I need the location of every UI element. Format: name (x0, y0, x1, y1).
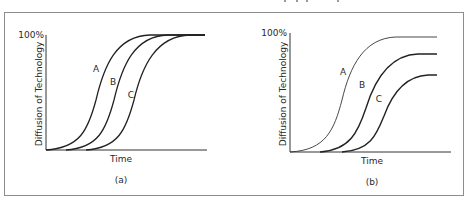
top-cutoff-text (284, 0, 339, 2)
y-tick-100: 100% (18, 30, 44, 40)
x-axis-label: Time (360, 156, 383, 166)
panel-a: 100% Diffusion of Technology A B C Time … (18, 30, 207, 185)
y-tick-100: 100% (261, 28, 287, 38)
curve-b-label: B (110, 77, 116, 87)
curve-a (46, 35, 205, 150)
diffusion-figure: 100% Diffusion of Technology A B C Time … (0, 0, 469, 201)
curve-b-label: B (359, 80, 365, 90)
x-axis-label: Time (109, 154, 132, 164)
panel-caption: (b) (366, 177, 379, 187)
curve-c (86, 35, 205, 150)
curve-c-label: C (376, 94, 382, 104)
panel-b: 100% Diffusion of Technology A B C Time … (261, 28, 451, 187)
curve-a-label: A (340, 67, 347, 77)
curve-c-label: C (128, 90, 134, 100)
panel-caption: (a) (115, 175, 128, 185)
curve-c (342, 75, 437, 152)
y-axis-label: Diffusion of Technology (34, 41, 44, 146)
curve-a-label: A (93, 64, 100, 74)
y-axis-label: Diffusion of Technology (278, 41, 288, 146)
